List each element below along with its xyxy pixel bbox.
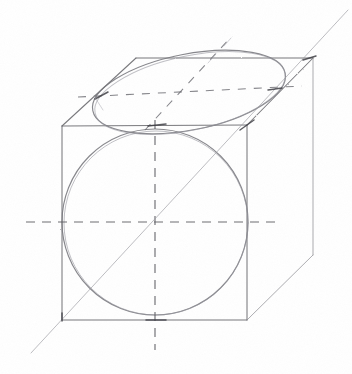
- pencil-sketch-drawing: [0, 0, 352, 374]
- sketch-canvas: Cube with Inscribed Sphere Pencil sketch…: [0, 0, 352, 374]
